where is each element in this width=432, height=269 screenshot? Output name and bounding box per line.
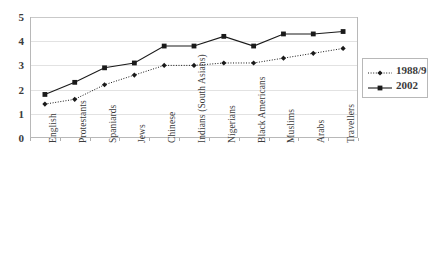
legend-item-1988-9[interactable]: 1988/9 <box>367 63 422 78</box>
legend-label: 1988/9 <box>396 65 427 76</box>
x-tick-label-indians-south-asians-: Indians (South Asians) <box>198 54 208 143</box>
legend-swatch <box>367 80 393 92</box>
x-tick-4 <box>149 138 150 141</box>
x-tick-1 <box>60 138 61 141</box>
x-tick-11 <box>358 138 359 141</box>
x-tick-5 <box>179 138 180 141</box>
x-tick-3 <box>119 138 120 141</box>
x-tick-label-arabs: Arabs <box>317 120 327 143</box>
x-tick-0 <box>30 138 31 141</box>
legend-item-2002[interactable]: 2002 <box>367 78 422 93</box>
x-tick-8 <box>269 138 270 141</box>
x-tick-label-nigerians: Nigerians <box>228 105 238 143</box>
x-tick-label-travellers: Travellers <box>347 104 357 143</box>
chart-legend: 1988/92002 <box>362 58 428 98</box>
x-tick-6 <box>209 138 210 141</box>
x-tick-label-muslims: Muslims <box>287 109 297 143</box>
x-tick-label-black-americans: Black Americans <box>258 76 268 143</box>
legend-swatch <box>367 65 393 77</box>
x-tick-label-spaniards: Spaniards <box>109 105 119 143</box>
x-tick-label-jews: Jews <box>138 124 148 143</box>
chart-container: 012345 EnglishProtestantsSpaniardsJewsCh… <box>0 0 432 269</box>
x-tick-7 <box>239 138 240 141</box>
x-tick-label-english: English <box>49 113 59 143</box>
x-tick-label-chinese: Chinese <box>168 112 178 143</box>
x-tick-9 <box>298 138 299 141</box>
bottom-caption <box>6 260 306 269</box>
x-tick-10 <box>328 138 329 141</box>
x-axis: EnglishProtestantsSpaniardsJewsChineseIn… <box>0 0 432 269</box>
x-tick-2 <box>90 138 91 141</box>
x-tick-label-protestants: Protestants <box>79 100 89 143</box>
legend-label: 2002 <box>396 80 418 91</box>
